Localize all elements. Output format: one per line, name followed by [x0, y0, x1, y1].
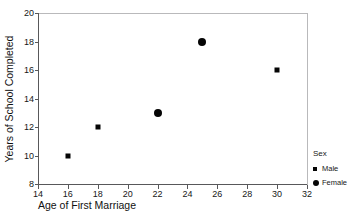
x-tick-label: 26 — [212, 190, 222, 199]
x-axis-spine — [38, 184, 308, 185]
x-tick-label: 28 — [242, 190, 252, 199]
legend-item-female: Female — [313, 177, 343, 188]
x-tick-label: 22 — [153, 190, 163, 199]
y-axis-title: Years of School Completed — [2, 13, 16, 185]
legend-item-male: Male — [313, 163, 343, 174]
data-point-female — [198, 38, 206, 46]
y-tick — [35, 42, 39, 43]
legend: Sex Male Female — [313, 149, 343, 191]
x-tick-label: 30 — [272, 190, 282, 199]
legend-label-male: Male — [322, 164, 338, 174]
y-tick — [35, 70, 39, 71]
x-tick-label: 32 — [302, 190, 312, 199]
y-tick-label: 14 — [24, 94, 34, 103]
data-point-male — [275, 68, 280, 73]
y-tick — [35, 99, 39, 100]
x-tick-label: 18 — [93, 190, 103, 199]
y-tick-label: 20 — [24, 9, 34, 18]
data-point-male — [95, 125, 100, 130]
data-point-female — [154, 109, 162, 117]
circle-marker-icon — [313, 180, 322, 186]
y-tick — [35, 13, 39, 14]
data-point-male — [65, 153, 70, 158]
x-tick-label: 14 — [33, 190, 43, 199]
plot-frame-top — [38, 13, 308, 14]
legend-title: Sex — [313, 149, 343, 159]
x-tick-label: 16 — [63, 190, 73, 199]
y-tick — [35, 156, 39, 157]
y-tick-label: 8 — [29, 180, 34, 189]
y-tick-label: 16 — [24, 66, 34, 75]
y-tick-label: 10 — [24, 151, 34, 160]
y-tick-label: 18 — [24, 37, 34, 46]
square-marker-icon — [313, 167, 322, 171]
x-tick-label: 24 — [182, 190, 192, 199]
plot-frame-right — [307, 13, 308, 185]
x-tick-label: 20 — [123, 190, 133, 199]
x-axis-title: Age of First Marriage — [38, 199, 136, 212]
legend-label-female: Female — [322, 178, 347, 188]
y-tick-label: 12 — [24, 123, 34, 132]
y-tick — [35, 127, 39, 128]
plot-area: 8101214161820 14161820222426283032 — [38, 13, 308, 185]
